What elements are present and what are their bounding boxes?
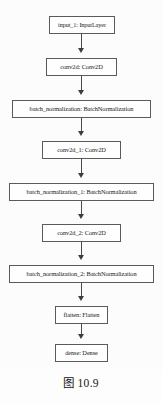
arrowhead-icon [78,90,84,95]
figure-caption: 图 10.9 [0,374,162,390]
layer-node-label: input_1: InputLayer [58,22,106,28]
edge-batch_normalization_2-to-flatten [81,283,82,296]
arrowhead-icon [78,131,84,136]
layer-node-label: batch_normalization: BatchNormalization [30,106,134,112]
edge-conv2d-to-batch_normalization [81,76,82,90]
layer-node-label: conv2d_1: Conv2D [57,147,106,153]
figure-page: input_1: InputLayerconv2d: Conv2Dbatch_n… [0,0,162,403]
layer-node-batch_normalization: batch_normalization: BatchNormalization [12,100,151,118]
arrowhead-icon [78,214,84,219]
arrowhead-icon [78,48,84,53]
edge-batch_normalization_1-to-conv2d_2 [81,201,82,214]
model-architecture-graph: input_1: InputLayerconv2d: Conv2Dbatch_n… [0,0,162,370]
layer-node-input_1: input_1: InputLayer [49,16,115,34]
layer-node-conv2d: conv2d: Conv2D [46,58,117,76]
layer-node-label: conv2d_2: Conv2D [57,230,106,236]
layer-node-conv2d_1: conv2d_1: Conv2D [42,141,121,159]
layer-node-label: dense: Dense [65,350,98,356]
layer-node-label: batch_normalization_1: BatchNormalizatio… [26,189,136,195]
layer-node-label: batch_normalization_2: BatchNormalizatio… [26,271,136,277]
layer-node-batch_normalization_1: batch_normalization_1: BatchNormalizatio… [9,183,154,201]
edge-flatten-to-dense [81,324,82,334]
layer-node-conv2d_2: conv2d_2: Conv2D [42,224,121,242]
layer-node-batch_normalization_2: batch_normalization_2: BatchNormalizatio… [9,265,154,283]
arrowhead-icon [78,255,84,260]
arrowhead-icon [78,173,84,178]
layer-node-dense: dense: Dense [55,344,108,362]
layer-node-label: flatten: Flatten [64,312,100,318]
layer-node-flatten: flatten: Flatten [55,306,108,324]
edge-conv2d_2-to-batch_normalization_2 [81,242,82,255]
arrowhead-icon [78,296,84,301]
arrowhead-icon [78,334,84,339]
edge-input_1-to-conv2d [81,34,82,48]
layer-node-label: conv2d: Conv2D [60,64,102,70]
edge-conv2d_1-to-batch_normalization_1 [81,159,82,173]
edge-batch_normalization-to-conv2d_1 [81,118,82,131]
